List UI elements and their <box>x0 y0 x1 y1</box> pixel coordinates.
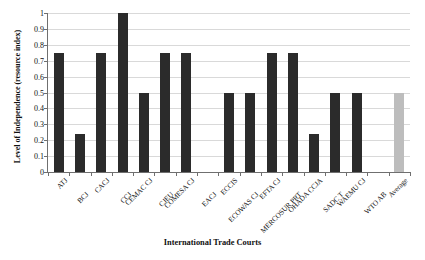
bar <box>309 134 319 172</box>
x-axis-tick-label: EACJ <box>199 190 218 209</box>
bars-layer <box>48 13 410 172</box>
y-axis-tick-label: 0 <box>4 168 44 177</box>
bar <box>75 134 85 172</box>
bar <box>394 93 404 173</box>
x-axis-tick-label: ECOWAS CJ <box>227 190 261 224</box>
bar <box>96 53 106 172</box>
y-axis-tick-label: 0.4 <box>4 104 44 113</box>
bar <box>288 53 298 172</box>
x-axis-tick-label: ATJ <box>54 176 69 191</box>
y-axis-tick-label: 1 <box>4 9 44 18</box>
bar <box>245 93 255 173</box>
y-axis-tick-label: 0.5 <box>4 88 44 97</box>
bar <box>160 53 170 172</box>
y-axis-tick-labels: 10.90.80.70.60.50.40.30.20.10 <box>0 13 44 172</box>
x-axis-tick-mark <box>410 172 411 176</box>
bar <box>330 93 340 173</box>
x-axis-tick-label: WTO AB <box>362 190 388 216</box>
bar <box>54 53 64 172</box>
x-axis-tick-label: EFTA CJ <box>257 176 282 201</box>
y-axis-tick-label: 0.3 <box>4 120 44 129</box>
bar <box>181 53 191 172</box>
x-axis-tick-label: CACJ <box>93 176 112 195</box>
y-axis-tick-label: 0.1 <box>4 152 44 161</box>
x-axis-tick-label: Average <box>387 176 410 199</box>
bar <box>139 93 149 173</box>
plot-area <box>48 13 410 172</box>
y-axis-tick-label: 0.2 <box>4 136 44 145</box>
bar <box>267 53 277 172</box>
x-axis-tick-label: BCJ <box>75 190 90 205</box>
bar <box>118 13 128 172</box>
bar <box>352 93 362 173</box>
x-axis-title: International Trade Courts <box>0 238 425 247</box>
y-axis-tick-label: 0.6 <box>4 72 44 81</box>
bar <box>224 93 234 173</box>
y-axis-tick-label: 0.9 <box>4 24 44 33</box>
bar-chart: Level of Independence (resource index) 1… <box>0 0 425 260</box>
x-axis-tick-labels: ATJBCJCACJCCJCEMAC CJCJEUCOMESA CJEACJEC… <box>48 176 410 238</box>
y-axis-tick-label: 0.7 <box>4 56 44 65</box>
x-axis-tick-label: ECCIS <box>219 176 240 197</box>
y-axis-tick-label: 0.8 <box>4 40 44 49</box>
